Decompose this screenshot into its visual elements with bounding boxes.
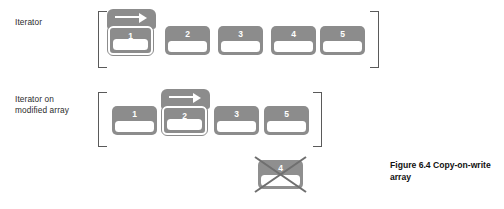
array-cell-row1-3[interactable]: 3 bbox=[218, 26, 263, 55]
array-cell-value: 2 bbox=[165, 28, 210, 40]
array-cell-row1-5[interactable]: 5 bbox=[320, 26, 365, 55]
array-cell-value: 4 bbox=[271, 28, 316, 40]
right-arrow-icon-head bbox=[193, 93, 201, 103]
array-bracket-right-row1 bbox=[370, 11, 379, 68]
array-bracket-right-row2 bbox=[313, 92, 322, 147]
array-cell-value: 3 bbox=[218, 28, 263, 40]
array-cell-slot bbox=[274, 41, 313, 52]
array-cell-slot bbox=[217, 121, 256, 132]
right-arrow-icon-line bbox=[169, 96, 195, 98]
array-cell-slot bbox=[323, 41, 362, 52]
array-cell-slot bbox=[221, 41, 260, 52]
figure-caption: Figure 6.4 Copy-on-write array bbox=[390, 160, 498, 183]
array-cell-slot bbox=[115, 121, 154, 132]
array-cell-value: 3 bbox=[214, 108, 259, 120]
figure-copy-on-write-array: Iterator 1 2 3 4 5 Iterator on modified … bbox=[0, 0, 504, 209]
array-cell-row1-4[interactable]: 4 bbox=[271, 26, 316, 55]
array-cell-slot bbox=[261, 175, 300, 186]
array-cell-row1-1[interactable]: 1 bbox=[108, 26, 153, 55]
array-cell-row2-2[interactable]: 2 bbox=[162, 106, 207, 135]
array-cell-value: 1 bbox=[112, 108, 157, 120]
array-cell-row2-4[interactable]: 5 bbox=[264, 106, 309, 135]
right-arrow-icon-line bbox=[115, 16, 141, 18]
array-cell-slot bbox=[113, 39, 148, 50]
array-cell-slot bbox=[168, 41, 207, 52]
array-cell-value: 4 bbox=[258, 162, 303, 174]
array-cell-row1-2[interactable]: 2 bbox=[165, 26, 210, 55]
array-cell-removed-4[interactable]: 4 bbox=[258, 160, 303, 189]
array-cell-row2-1[interactable]: 1 bbox=[112, 106, 157, 135]
array-cell-slot bbox=[267, 121, 306, 132]
array-cell-slot bbox=[167, 119, 202, 130]
row-label-iterator: Iterator bbox=[15, 17, 42, 28]
right-arrow-icon-head bbox=[139, 13, 147, 23]
array-bracket-left-row1 bbox=[98, 11, 107, 68]
array-cell-row2-3[interactable]: 3 bbox=[214, 106, 259, 135]
array-bracket-left-row2 bbox=[98, 92, 107, 147]
array-cell-value: 5 bbox=[320, 28, 365, 40]
row-label-iterator-modified-array: Iterator on modified array bbox=[15, 94, 69, 116]
array-cell-value: 5 bbox=[264, 108, 309, 120]
